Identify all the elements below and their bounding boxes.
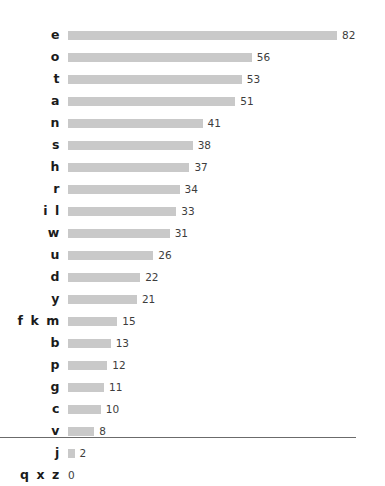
category-label: j bbox=[0, 447, 68, 460]
bar bbox=[68, 383, 104, 392]
category-label: o bbox=[0, 51, 68, 64]
value-label: 0 bbox=[68, 470, 75, 481]
bar-track: 21 bbox=[68, 294, 385, 305]
bar-row: i l33 bbox=[0, 200, 385, 222]
bar-track: 11 bbox=[68, 382, 385, 393]
value-label: 22 bbox=[145, 272, 158, 283]
bar-row: n41 bbox=[0, 112, 385, 134]
bar bbox=[68, 251, 153, 260]
bar bbox=[68, 361, 107, 370]
bottom-axis-rule bbox=[0, 437, 356, 438]
bar bbox=[68, 207, 176, 216]
bar-track: 0 bbox=[68, 470, 385, 481]
bar-track: 56 bbox=[68, 52, 385, 63]
bar-row: a51 bbox=[0, 90, 385, 112]
category-label: w bbox=[0, 227, 68, 240]
bar bbox=[68, 449, 75, 458]
bar-track: 38 bbox=[68, 140, 385, 151]
bar-track: 33 bbox=[68, 206, 385, 217]
category-label: d bbox=[0, 271, 68, 284]
category-label: u bbox=[0, 249, 68, 262]
value-label: 13 bbox=[116, 338, 129, 349]
bar-row: e82 bbox=[0, 24, 385, 46]
bar-row: p12 bbox=[0, 354, 385, 376]
bar-track: 53 bbox=[68, 74, 385, 85]
bar-track: 22 bbox=[68, 272, 385, 283]
bar-track: 8 bbox=[68, 426, 385, 437]
bar-track: 41 bbox=[68, 118, 385, 129]
bar-track: 31 bbox=[68, 228, 385, 239]
value-label: 11 bbox=[109, 382, 122, 393]
bar bbox=[68, 339, 111, 348]
bar-row: d22 bbox=[0, 266, 385, 288]
bar-row: h37 bbox=[0, 156, 385, 178]
bar-row: u26 bbox=[0, 244, 385, 266]
bar bbox=[68, 317, 117, 326]
bar-track: 13 bbox=[68, 338, 385, 349]
value-label: 8 bbox=[99, 426, 106, 437]
bar-track: 82 bbox=[68, 30, 385, 41]
value-label: 56 bbox=[257, 52, 270, 63]
bar bbox=[68, 53, 252, 62]
value-label: 53 bbox=[247, 74, 260, 85]
category-label: r bbox=[0, 183, 68, 196]
bar-track: 2 bbox=[68, 448, 385, 459]
bar bbox=[68, 273, 140, 282]
category-label: f k m bbox=[0, 315, 68, 328]
bar-row: s38 bbox=[0, 134, 385, 156]
category-label: t bbox=[0, 73, 68, 86]
bar-track: 15 bbox=[68, 316, 385, 327]
value-label: 37 bbox=[194, 162, 207, 173]
category-label: i l bbox=[0, 205, 68, 218]
bar-row: y21 bbox=[0, 288, 385, 310]
value-label: 2 bbox=[80, 448, 87, 459]
bar bbox=[68, 119, 203, 128]
value-label: 21 bbox=[142, 294, 155, 305]
bar bbox=[68, 75, 242, 84]
bar bbox=[68, 31, 337, 40]
value-label: 41 bbox=[208, 118, 221, 129]
category-label: p bbox=[0, 359, 68, 372]
category-label: s bbox=[0, 139, 68, 152]
bar bbox=[68, 163, 189, 172]
value-label: 15 bbox=[122, 316, 135, 327]
bar-row: j2 bbox=[0, 442, 385, 464]
bar-track: 26 bbox=[68, 250, 385, 261]
value-label: 10 bbox=[106, 404, 119, 415]
value-label: 82 bbox=[342, 30, 355, 41]
bar-track: 37 bbox=[68, 162, 385, 173]
bar-row: b13 bbox=[0, 332, 385, 354]
bar bbox=[68, 427, 94, 436]
value-label: 12 bbox=[112, 360, 125, 371]
value-label: 51 bbox=[240, 96, 253, 107]
category-label: c bbox=[0, 403, 68, 416]
category-label: n bbox=[0, 117, 68, 130]
bar-row: o56 bbox=[0, 46, 385, 68]
bar-track: 34 bbox=[68, 184, 385, 195]
category-label: e bbox=[0, 29, 68, 42]
bar-row: c10 bbox=[0, 398, 385, 420]
value-label: 26 bbox=[158, 250, 171, 261]
bar-row: q x z0 bbox=[0, 464, 385, 486]
bar-row: w31 bbox=[0, 222, 385, 244]
value-label: 38 bbox=[198, 140, 211, 151]
bar-track: 12 bbox=[68, 360, 385, 371]
bar-track: 10 bbox=[68, 404, 385, 415]
category-label: a bbox=[0, 95, 68, 108]
bar bbox=[68, 295, 137, 304]
bar bbox=[68, 141, 193, 150]
bar bbox=[68, 185, 180, 194]
category-label: q x z bbox=[0, 469, 68, 482]
bar-row: r34 bbox=[0, 178, 385, 200]
category-label: v bbox=[0, 425, 68, 438]
bar-row: g11 bbox=[0, 376, 385, 398]
category-label: g bbox=[0, 381, 68, 394]
bar-track: 51 bbox=[68, 96, 385, 107]
category-label: y bbox=[0, 293, 68, 306]
bar bbox=[68, 97, 235, 106]
value-label: 34 bbox=[185, 184, 198, 195]
bar-row: t53 bbox=[0, 68, 385, 90]
value-label: 31 bbox=[175, 228, 188, 239]
category-label: b bbox=[0, 337, 68, 350]
